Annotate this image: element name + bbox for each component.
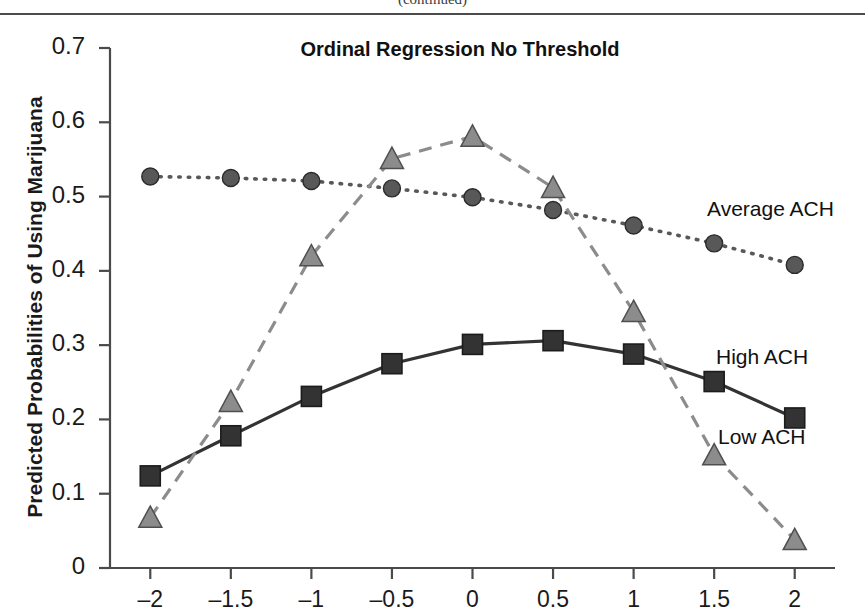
marker-0-2 <box>303 172 320 189</box>
marker-0-7 <box>706 235 723 252</box>
marker-1-5 <box>543 331 563 351</box>
series-label-high-ach: High ACH <box>716 345 808 369</box>
marker-2-4 <box>461 125 484 146</box>
marker-1-2 <box>301 386 321 406</box>
marker-1-0 <box>140 466 160 486</box>
marker-0-8 <box>786 256 803 273</box>
y-tick-label-4: 0.3 <box>25 329 85 357</box>
y-tick-label-6: 0.1 <box>25 478 85 506</box>
series-label-average-ach: Average ACH <box>707 197 834 221</box>
series-line-1 <box>150 341 794 476</box>
x-tick-label-3: –0.5 <box>357 586 427 609</box>
x-tick-label-1: –1.5 <box>196 586 266 609</box>
x-tick-label-8: 2 <box>760 586 830 609</box>
marker-0-5 <box>545 201 562 218</box>
y-tick-label-0: 0.7 <box>25 32 85 60</box>
chart-plot-area <box>0 0 865 609</box>
marker-0-3 <box>383 180 400 197</box>
marker-1-1 <box>221 426 241 446</box>
marker-0-4 <box>464 189 481 206</box>
marker-1-7 <box>704 372 724 392</box>
marker-0-1 <box>222 170 239 187</box>
y-tick-label-7: 0 <box>25 552 85 580</box>
marker-0-6 <box>625 217 642 234</box>
series-label-low-ach: Low ACH <box>718 425 806 449</box>
marker-0-0 <box>142 168 159 185</box>
x-tick-label-2: –1 <box>276 586 346 609</box>
marker-2-1 <box>219 390 242 411</box>
x-tick-label-6: 1 <box>599 586 669 609</box>
marker-2-6 <box>622 300 645 321</box>
x-tick-label-7: 1.5 <box>679 586 749 609</box>
y-tick-label-1: 0.6 <box>25 106 85 134</box>
y-tick-label-3: 0.4 <box>25 255 85 283</box>
x-tick-label-0: –2 <box>115 586 185 609</box>
y-tick-label-2: 0.5 <box>25 181 85 209</box>
marker-1-6 <box>624 344 644 364</box>
marker-2-5 <box>542 176 565 197</box>
marker-2-8 <box>783 528 806 549</box>
marker-1-4 <box>463 334 483 354</box>
x-tick-label-5: 0.5 <box>518 586 588 609</box>
y-tick-label-5: 0.2 <box>25 403 85 431</box>
x-tick-label-4: 0 <box>438 586 508 609</box>
figure-page: (continued) Predicted Probabilities of U… <box>0 0 865 609</box>
marker-1-3 <box>382 354 402 374</box>
marker-2-0 <box>139 506 162 527</box>
